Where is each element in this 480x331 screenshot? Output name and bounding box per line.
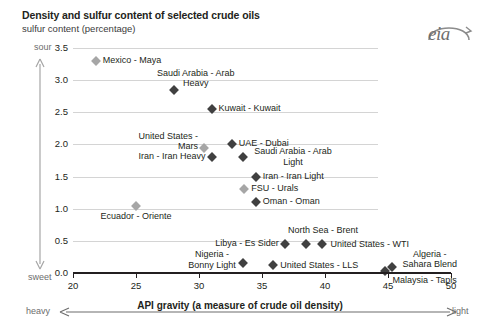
- data-point-label: Oman - Oman: [263, 196, 320, 207]
- data-point-label: Iran - Iran Light: [263, 171, 324, 182]
- data-point-label: Libya - Es Sider: [213, 238, 279, 249]
- gridline: [73, 144, 378, 145]
- y-tick-label: 3.0: [44, 74, 68, 85]
- y-tick-label: 2.0: [44, 138, 68, 149]
- x-tick: [136, 273, 137, 278]
- x-tick-label: 40: [320, 280, 331, 291]
- data-point: [251, 172, 261, 182]
- data-point: [227, 139, 237, 149]
- data-point: [268, 260, 278, 270]
- eia-logo-text: eia: [428, 23, 450, 45]
- chart-subtitle: sulfur content (percentage): [22, 23, 136, 34]
- y-tick-label: 0.5: [44, 235, 68, 246]
- data-point-label: United States - Mars: [122, 131, 198, 152]
- x-tick: [262, 273, 263, 278]
- x-tick: [325, 273, 326, 278]
- data-point-label: Kuwait - Kuwait: [219, 103, 281, 114]
- data-point: [238, 152, 248, 162]
- chart-title: Density and sulfur content of selected c…: [22, 9, 260, 21]
- data-point-label: Algeria - Sahara Blend: [399, 249, 461, 270]
- x-tick: [199, 273, 200, 278]
- data-point-label: United States - LLS: [280, 260, 358, 271]
- data-point: [239, 184, 249, 194]
- data-point-label: Iran - Iran Heavy: [128, 151, 206, 162]
- x-tick-label: 45: [383, 280, 394, 291]
- heavy-light-arrow: [58, 305, 458, 319]
- eia-logo: eia: [426, 18, 474, 48]
- plot-area: Mexico - MayaSaudi Arabia - Arab HeavyKu…: [73, 48, 378, 273]
- x-tick-label: 30: [194, 280, 205, 291]
- data-point-label: Nigeria - Bonny Light: [183, 249, 241, 270]
- data-point-label: FSU - Urals: [251, 183, 298, 194]
- y-tick-label: 1.0: [44, 203, 68, 214]
- chart-container: Density and sulfur content of selected c…: [0, 0, 480, 331]
- x-tick: [451, 273, 452, 278]
- gridline: [73, 48, 378, 49]
- y-tick-label: 2.5: [44, 106, 68, 117]
- data-point-label: Ecuador - Oriente: [96, 211, 176, 222]
- data-point: [91, 56, 101, 66]
- x-tick-label: 50: [446, 280, 457, 291]
- data-point-label: Mexico - Maya: [103, 55, 162, 66]
- x-tick: [388, 273, 389, 278]
- x-tick-label: 20: [68, 280, 79, 291]
- data-point-label: Saudi Arabia - Arab Heavy: [148, 68, 244, 89]
- gridline: [73, 177, 378, 178]
- x-tick-label: 25: [131, 280, 142, 291]
- data-point-label: North Sea - Brent: [288, 225, 358, 236]
- y-tick-label: 1.5: [44, 171, 68, 182]
- data-point-label: Saudi Arabia - Arab Light: [250, 146, 336, 167]
- y-tick-label: 0.0: [44, 267, 68, 278]
- x-tick: [73, 273, 74, 278]
- y-tick-label: 3.5: [44, 42, 68, 53]
- data-point: [251, 197, 261, 207]
- data-point: [207, 152, 217, 162]
- data-point-label: United States - WTI: [330, 239, 409, 250]
- x-tick-label: 35: [257, 280, 268, 291]
